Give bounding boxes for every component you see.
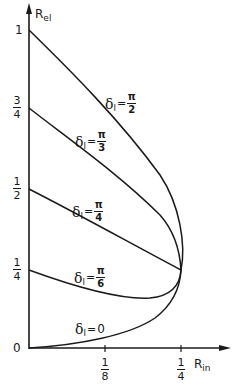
equals-sign: = xyxy=(87,323,96,336)
delta-subscript: l xyxy=(83,141,86,151)
y-label-1-4: 14 xyxy=(13,257,21,282)
y-label-1-2-num: 1 xyxy=(14,176,21,187)
label-value: 0 xyxy=(97,322,105,336)
y-label-1-4-num: 1 xyxy=(14,257,21,268)
delta-symbol: δ xyxy=(72,204,80,220)
x-label-1-8: 18 xyxy=(101,357,109,382)
delta-subscript: l xyxy=(83,328,86,338)
x-axis-title-sub: in xyxy=(202,363,210,373)
x-label-1-8-num: 1 xyxy=(102,357,109,368)
delta-subscript: l xyxy=(80,211,83,221)
curve-delta-pi-4 xyxy=(29,189,181,270)
chart-canvas xyxy=(0,0,235,386)
delta-subscript: l xyxy=(113,103,116,113)
curve-label-pi-6: δl= π6 xyxy=(74,266,105,289)
origin-label: 0 xyxy=(13,342,21,354)
y-label-1-2: 12 xyxy=(13,176,21,201)
curve-label-pi-3: δl= π3 xyxy=(75,130,106,153)
y-label-3-4-num: 3 xyxy=(14,95,21,106)
curve-label-0: δl=0 xyxy=(75,320,105,338)
curve-label-pi-2: δl= π2 xyxy=(105,92,136,115)
equals-sign: = xyxy=(117,97,126,110)
y-axis-title-sub: el xyxy=(43,13,51,23)
label-den: 6 xyxy=(97,279,104,289)
x-label-1-4: 14 xyxy=(177,357,185,382)
y-label-1-4-den: 4 xyxy=(14,271,21,282)
y-label-3-4: 34 xyxy=(13,95,21,120)
x-axis-arrow-icon xyxy=(219,345,231,351)
curve-label-pi-4: δl= π4 xyxy=(72,200,103,223)
delta-subscript: l xyxy=(82,277,85,287)
label-num: π xyxy=(98,130,106,140)
x-label-1-4-den: 4 xyxy=(178,371,185,382)
x-label-1-4-num: 1 xyxy=(178,357,185,368)
y-label-1-2-den: 2 xyxy=(14,190,21,201)
label-num: π xyxy=(128,92,136,102)
y-axis-arrow-icon xyxy=(26,3,32,14)
label-den: 3 xyxy=(98,143,105,153)
y-label-1: 1 xyxy=(15,24,23,36)
equals-sign: = xyxy=(86,271,95,284)
x-axis-title: Rin xyxy=(194,357,211,373)
equals-sign: = xyxy=(84,205,93,218)
delta-symbol: δ xyxy=(105,96,113,112)
delta-symbol: δ xyxy=(75,321,83,337)
label-num: π xyxy=(97,266,105,276)
delta-symbol: δ xyxy=(74,270,82,286)
y-label-3-4-den: 4 xyxy=(14,109,21,120)
label-num: π xyxy=(95,200,103,210)
label-den: 4 xyxy=(95,213,102,223)
y-axis-title: Rel xyxy=(35,7,51,23)
delta-symbol: δ xyxy=(75,134,83,150)
label-den: 2 xyxy=(128,105,135,115)
x-label-1-8-den: 8 xyxy=(102,371,109,382)
equals-sign: = xyxy=(87,135,96,148)
